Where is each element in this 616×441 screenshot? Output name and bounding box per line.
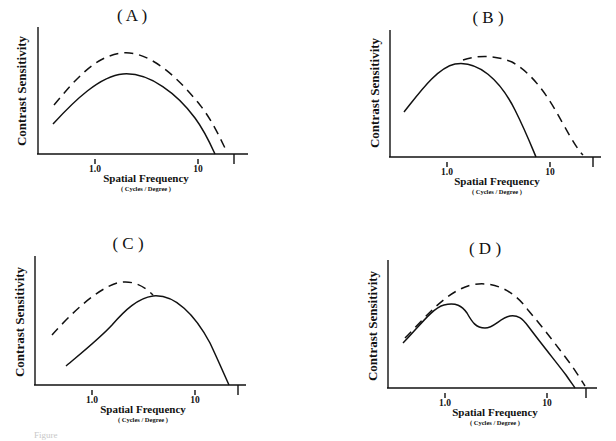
- reference-curve: [405, 284, 585, 386]
- tick-label-1: 1.0: [86, 395, 98, 405]
- x-axis-units: ( Cycles / Degree ): [118, 416, 168, 424]
- reference-curve: [52, 282, 153, 335]
- tick-label-1: 1.0: [441, 167, 453, 177]
- tick-label-10: 10: [193, 164, 203, 174]
- y-axis-label: Contrast Sensitivity: [367, 37, 382, 148]
- tick-label-10: 10: [542, 398, 552, 408]
- observed-curve: [404, 63, 536, 157]
- panel-d-title: ( D ): [469, 239, 501, 258]
- x-axis-label: Spatial Frequency: [100, 403, 186, 415]
- panel-a-title: ( A ): [117, 6, 147, 25]
- x-axis-units: ( Cycles / Degree ): [472, 188, 522, 196]
- tick-label-1: 1.0: [439, 398, 451, 408]
- panel-c-title: ( C ): [112, 234, 143, 253]
- y-axis-label: Contrast Sensitivity: [14, 35, 29, 146]
- observed-curve: [403, 304, 575, 388]
- reference-curve: [54, 53, 225, 148]
- observed-curve: [66, 296, 229, 385]
- y-axis-label: Contrast Sensitivity: [365, 270, 380, 381]
- figure-caption: Figure: [34, 430, 58, 440]
- panel-c: ( C ) 1.0 10 Spatial Frequency ( Cycles …: [12, 234, 246, 424]
- tick-label-10: 10: [545, 167, 555, 177]
- y-axis-label: Contrast Sensitivity: [12, 266, 27, 377]
- panel-b-title: ( B ): [472, 8, 503, 27]
- x-axis-label: Spatial Frequency: [454, 175, 540, 187]
- x-axis-label: Spatial Frequency: [452, 406, 538, 418]
- x-axis-units: ( Cycles / Degree ): [470, 419, 520, 427]
- figure-canvas: ( A ) 1.0 10 Spatial Frequency ( Cycles …: [0, 0, 616, 441]
- tick-label-1: 1.0: [89, 164, 101, 174]
- tick-label-10: 10: [190, 395, 200, 405]
- x-axis-units: ( Cycles / Degree ): [121, 185, 171, 193]
- panel-d: ( D ) 1.0 10 Spatial Frequency ( Cycles …: [365, 239, 597, 427]
- x-axis-label: Spatial Frequency: [103, 172, 189, 184]
- observed-curve: [53, 74, 215, 154]
- panel-b: ( B ) 1.0 10 Spatial Frequency ( Cycles …: [367, 8, 601, 196]
- reference-curve: [463, 56, 583, 155]
- panel-a: ( A ) 1.0 10 Spatial Frequency ( Cycles …: [14, 6, 248, 193]
